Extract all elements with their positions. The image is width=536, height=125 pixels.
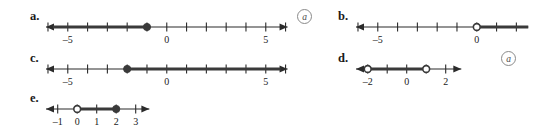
tick-label: –5 (62, 34, 73, 45)
row-label-a: a. (30, 10, 39, 23)
row-label-e: e. (30, 92, 39, 105)
tick-label: 0 (474, 34, 479, 45)
left-arrowhead-c (46, 65, 54, 72)
open-endpoint-dot (423, 66, 430, 73)
tick-label: –5 (62, 76, 73, 87)
circled-a-annotation-d: a (501, 51, 516, 66)
row-label-b: b. (338, 10, 348, 23)
row-label-d: d. (338, 52, 348, 65)
tick-label: 1 (94, 116, 99, 125)
tick-label: 5 (263, 76, 268, 87)
left-arrowhead-b (356, 23, 364, 30)
number-line-c: –505 (46, 59, 304, 93)
number-line-figure: a.a–505b.–50c.–505d.a–202e.–10123 (0, 0, 536, 125)
tick-label: 2 (443, 76, 448, 87)
closed-endpoint-dot (113, 105, 120, 112)
open-endpoint-dot (473, 24, 480, 31)
tick-label: 2 (114, 116, 119, 125)
left-arrowhead-e (46, 105, 54, 112)
right-arrowhead-d (453, 65, 461, 72)
tick-label: 3 (133, 116, 138, 125)
tick-label: 5 (263, 34, 268, 45)
right-arrowhead-e (141, 105, 149, 112)
open-endpoint-dot (74, 106, 81, 113)
closed-endpoint-dot (143, 23, 150, 30)
number-line-d: –202 (356, 59, 477, 93)
left-arrowhead-d (356, 65, 364, 72)
number-line-b: –50 (356, 17, 536, 51)
right-arrowhead-a (280, 23, 288, 30)
open-endpoint-dot (364, 66, 371, 73)
tick-label: –1 (52, 116, 63, 125)
right-arrowhead-c (280, 65, 288, 72)
number-line-e: –10123 (46, 99, 165, 125)
row-label-c: c. (30, 52, 39, 65)
tick-label: –2 (362, 76, 373, 87)
tick-label: 0 (75, 116, 80, 125)
left-arrowhead-a (46, 23, 54, 30)
closed-endpoint-dot (124, 65, 131, 72)
number-line-a: –505 (46, 17, 304, 51)
tick-label: –5 (372, 34, 383, 45)
tick-label: 0 (164, 34, 169, 45)
tick-label: 0 (404, 76, 409, 87)
tick-label: 0 (164, 76, 169, 87)
